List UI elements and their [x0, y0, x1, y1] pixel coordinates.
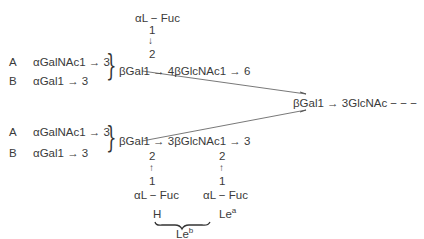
sugar-label: αGal1 → 3 [33, 148, 88, 160]
arrow-down-icon: ↓ [148, 36, 153, 46]
fucose-label: αL − Fuc [135, 13, 180, 25]
fucose-label: αL − Fuc [134, 190, 179, 202]
h-antigen-label: H [153, 209, 161, 221]
lea-antigen-label: Lea [219, 207, 236, 221]
linkage-number: 1 [149, 176, 155, 188]
brace-icon: } [106, 122, 117, 152]
sugar-label: αGal1 → 3 [33, 76, 88, 88]
linkage-number: 2 [149, 151, 155, 163]
core-chain-label: βGal1 → 3GlcNAc − − − [293, 98, 417, 110]
arrow-up-icon: ↑ [219, 163, 224, 173]
row-label-a: A [9, 127, 17, 139]
chain-label: βGal1 → 4βGlcNAc1 → 6 [119, 66, 250, 78]
row-label-a: A [9, 57, 17, 69]
linkage-number: 2 [219, 151, 225, 163]
connector-lines [0, 0, 424, 239]
brace-icon: } [106, 50, 117, 80]
leb-antigen-label: Leb [176, 227, 193, 239]
row-label-b: B [9, 148, 17, 160]
linkage-number: 1 [219, 176, 225, 188]
sugar-label: αGalNAc1 → 3 [33, 127, 110, 139]
sugar-label: αGalNAc1 → 3 [33, 57, 110, 69]
arrow-up-icon: ↑ [149, 163, 154, 173]
chain-label: βGal1 → 3βGlcNAc1 → 3 [119, 136, 250, 148]
fucose-label: αL − Fuc [203, 190, 248, 202]
row-label-b: B [9, 76, 17, 88]
linkage-number: 2 [149, 49, 155, 61]
